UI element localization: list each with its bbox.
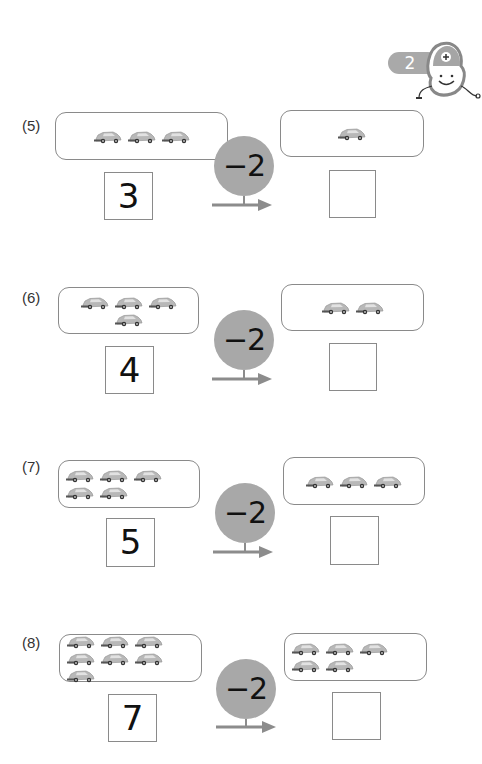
- car-icon: [133, 468, 163, 483]
- start-cars-box: [58, 287, 199, 334]
- car-icon: [161, 129, 191, 144]
- result-cars-box: [280, 110, 424, 157]
- result-cars-box: [283, 457, 425, 505]
- answer-box[interactable]: [329, 343, 377, 391]
- car-icon: [65, 485, 95, 500]
- result-cars-box: [284, 633, 427, 681]
- car-icon: [325, 658, 355, 673]
- car-icon: [325, 641, 355, 656]
- problem-label: (8): [22, 634, 40, 651]
- car-icon: [134, 651, 164, 666]
- car-icon: [339, 474, 369, 489]
- answer-box[interactable]: [330, 516, 379, 565]
- operator-circle: −2: [214, 310, 274, 370]
- car-icon: [100, 651, 130, 666]
- operator-circle: −2: [215, 483, 275, 543]
- car-icon: [359, 641, 389, 656]
- car-icon: [373, 474, 403, 489]
- car-icon: [66, 634, 96, 649]
- operator-circle: −2: [216, 659, 276, 719]
- car-icon: [305, 474, 335, 489]
- right-arrow-icon: [212, 373, 272, 385]
- car-icon: [80, 295, 110, 310]
- start-number-box: 5: [106, 518, 155, 567]
- car-icon: [99, 468, 129, 483]
- car-icon: [148, 295, 178, 310]
- car-icon: [93, 129, 123, 144]
- car-icon: [134, 634, 164, 649]
- car-icon: [337, 126, 367, 141]
- car-icon: [321, 300, 351, 315]
- start-cars-box: [55, 112, 228, 160]
- right-arrow-icon: [212, 199, 272, 211]
- problem-label: (6): [22, 289, 40, 306]
- answer-box[interactable]: [332, 692, 381, 740]
- start-cars-box: [59, 634, 202, 682]
- result-cars-box: [281, 284, 424, 331]
- right-arrow-icon: [213, 546, 273, 558]
- car-icon: [66, 668, 96, 683]
- car-icon: [114, 312, 144, 327]
- car-icon: [99, 485, 129, 500]
- car-icon: [100, 634, 130, 649]
- car-icon: [291, 641, 321, 656]
- start-cars-box: [58, 460, 200, 508]
- smiling-plus-mascot-icon: [415, 38, 482, 108]
- car-icon: [66, 651, 96, 666]
- answer-box[interactable]: [329, 170, 376, 218]
- car-icon: [114, 295, 144, 310]
- right-arrow-icon: [216, 721, 276, 733]
- car-icon: [355, 300, 385, 315]
- operator-circle: −2: [214, 136, 274, 196]
- start-number-box: 4: [105, 346, 154, 394]
- car-icon: [127, 129, 157, 144]
- problem-label: (5): [22, 117, 40, 134]
- car-icon: [65, 468, 95, 483]
- car-icon: [291, 658, 321, 673]
- problem-label: (7): [22, 458, 40, 475]
- start-number-box: 7: [108, 694, 157, 742]
- start-number-box: 3: [104, 172, 153, 220]
